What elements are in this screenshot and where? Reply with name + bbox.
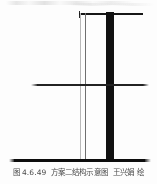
ground-line [14, 159, 145, 162]
wall-line-inner [85, 13, 86, 162]
figure-caption-title: 方案二结构示意图 [51, 168, 108, 177]
wall-line-outer [80, 13, 81, 162]
figure-caption-number: 图 [13, 168, 20, 177]
ground-line-right-fade [144, 159, 151, 162]
figure-caption-author: 王兴娟 [113, 168, 134, 177]
figure-caption-credit-verb: 绘 [137, 168, 144, 177]
figure-page: 图4.6.49 方案二结构示意图 王兴娟 绘 [0, 0, 157, 184]
figure-caption-index: 4.6.49 [22, 168, 46, 177]
floor-beam [37, 84, 143, 86]
structural-diagram [0, 0, 157, 166]
core-column [106, 12, 114, 162]
floor-beam-right-fade [143, 84, 149, 86]
figure-caption: 图4.6.49 方案二结构示意图 王兴娟 绘 [0, 167, 157, 178]
